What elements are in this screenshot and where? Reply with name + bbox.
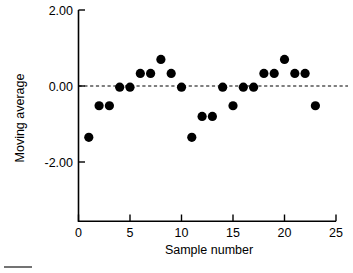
x-axis-title: Sample number [165,243,253,257]
y-axis-title: Moving average [13,73,27,162]
data-point [301,69,310,78]
data-point [167,69,176,78]
data-point [156,55,165,64]
data-point [239,83,248,92]
data-point [259,69,268,78]
data-point [136,69,145,78]
data-point [280,55,289,64]
data-point [187,133,196,142]
data-point [95,101,104,110]
figure-caption-rule [4,266,32,268]
x-tick-label-0: 0 [75,226,82,240]
data-point [115,83,124,92]
x-tick-label-25: 25 [329,226,343,240]
y-tick-label-neg2: -2.00 [45,156,74,170]
x-tick-label-5: 5 [127,226,134,240]
x-tick-label-10: 10 [175,226,189,240]
data-point [249,83,258,92]
y-tick-label-0: 0.00 [49,80,73,94]
chart-canvas: 2.00 0.00 -2.00 Moving average 0 5 10 15… [0,0,353,273]
x-tick-label-20: 20 [278,226,292,240]
data-point [125,83,134,92]
data-point [105,101,114,110]
data-point [84,133,93,142]
data-point [228,101,237,110]
data-point [208,112,217,121]
data-point [198,112,207,121]
data-point [270,69,279,78]
data-point [177,83,186,92]
x-tick-label-15: 15 [226,226,240,240]
moving-average-chart: 2.00 0.00 -2.00 Moving average 0 5 10 15… [0,0,353,273]
data-point [290,69,299,78]
data-point [218,83,227,92]
data-point [146,69,155,78]
data-point [311,101,320,110]
y-tick-label-2: 2.00 [49,4,73,18]
